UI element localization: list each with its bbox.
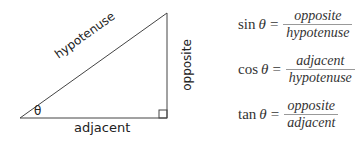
sine-formula: sin θ = opposite hypotenuse (238, 8, 352, 41)
theta: θ (259, 16, 266, 33)
equals: = (271, 106, 279, 123)
denominator: hypotenuse (286, 69, 355, 86)
tangent-formula: tan θ = opposite adjacent (238, 98, 338, 131)
tan-fn: tan (238, 106, 256, 123)
fraction: opposite hypotenuse (283, 8, 352, 41)
cos-fn: cos (238, 61, 258, 78)
sin-fn: sin (238, 16, 256, 33)
cosine-formula: cos θ = adjacent hypotenuse (238, 53, 355, 86)
right-angle-marker (159, 110, 167, 118)
fraction: adjacent hypotenuse (286, 53, 355, 86)
angle-theta-label: θ (34, 104, 41, 118)
numerator: opposite (285, 98, 338, 114)
theta: θ (261, 61, 268, 78)
equals: = (272, 61, 280, 78)
numerator: opposite (291, 8, 344, 24)
opposite-label: opposite (180, 30, 194, 100)
equals: = (270, 16, 278, 33)
theta: θ (259, 106, 266, 123)
denominator: adjacent (284, 114, 338, 131)
denominator: hypotenuse (283, 24, 352, 41)
adjacent-label: adjacent (74, 120, 130, 135)
fraction: opposite adjacent (284, 98, 338, 131)
numerator: adjacent (293, 53, 347, 69)
